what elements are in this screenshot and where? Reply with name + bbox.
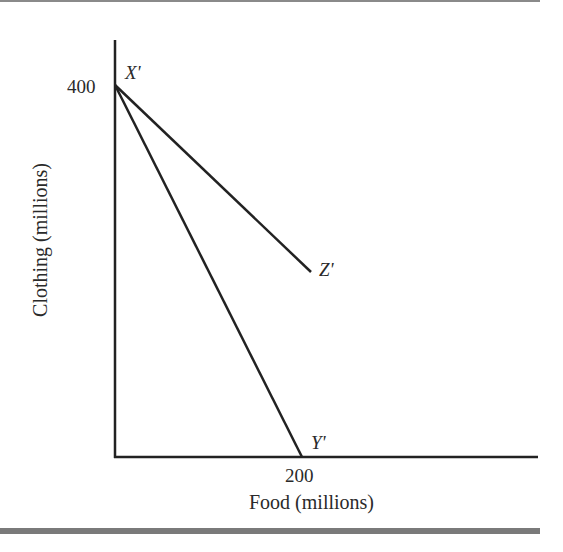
label-x-prime: X' [125,62,141,84]
label-z-prime: Z' [319,259,334,281]
y-tick-400: 400 [67,76,96,98]
y-axis-label: Clothing (millions) [29,163,52,317]
x-axis-label: Food (millions) [249,491,374,514]
line-x-y [115,85,302,457]
bottom-rule [0,528,540,534]
line-x-z [115,85,311,272]
x-tick-200: 200 [285,465,314,487]
label-y-prime: Y' [311,432,326,454]
